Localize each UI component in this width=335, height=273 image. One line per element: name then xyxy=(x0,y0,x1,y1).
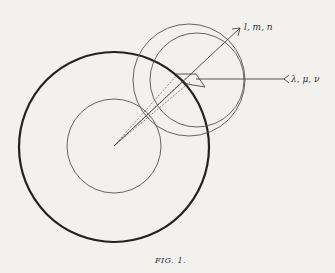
outer-sphere-circle xyxy=(19,52,209,242)
figure-caption: FIG. 1. xyxy=(154,256,186,265)
direction-arrow-lmn xyxy=(114,28,240,146)
displaced-circle-right xyxy=(150,33,244,127)
figure-diagram: l, m, n λ, μ, ν FIG. 1. xyxy=(0,0,335,273)
label-lmn: l, m, n xyxy=(244,22,273,32)
label-lambda-mu-nu: λ, μ, ν xyxy=(290,74,320,84)
